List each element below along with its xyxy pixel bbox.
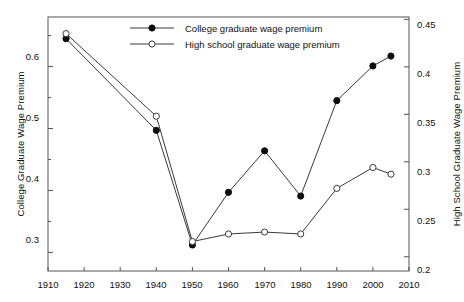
data-point-s1-0 (63, 31, 69, 37)
data-point-s1-3 (225, 231, 231, 237)
legend-marker-0 (149, 25, 155, 31)
data-point-s0-6 (334, 98, 340, 104)
data-point-s0-7 (370, 63, 376, 69)
data-point-s1-2 (189, 238, 195, 244)
data-point-s0-4 (262, 148, 268, 154)
chart-figure: College Graduate Wage Premium High Schoo… (0, 0, 464, 302)
data-point-s1-6 (334, 185, 340, 191)
data-point-s1-1 (153, 113, 159, 119)
plot-area (0, 0, 464, 302)
data-point-s1-5 (298, 231, 304, 237)
data-point-s0-1 (153, 127, 159, 133)
data-point-s1-8 (388, 171, 394, 177)
data-point-s0-3 (225, 189, 231, 195)
legend-markers (130, 25, 174, 47)
legend-marker-1 (149, 41, 155, 47)
data-point-s1-4 (262, 229, 268, 235)
data-point-s1-7 (370, 164, 376, 170)
data-series-layer (63, 31, 394, 249)
data-point-s0-5 (298, 193, 304, 199)
data-point-s0-8 (388, 53, 394, 59)
